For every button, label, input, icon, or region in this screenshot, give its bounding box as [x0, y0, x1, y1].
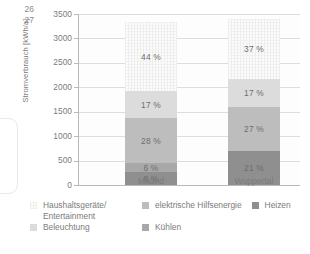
bar-wuppertal[interactable]: 37 %17 %27 %21 %	[228, 19, 280, 185]
y-axis-tick-label: 3500	[34, 9, 72, 19]
bar-segment-label: 17 %	[244, 88, 264, 98]
bar-segment-label: 21 %	[244, 163, 264, 173]
legend-label: elektrische Hilfsenergie	[155, 200, 242, 211]
legend-label: Beleuchtung	[43, 222, 90, 233]
legend-row-top-right: elektrische Hilfsenergie Heizen	[142, 200, 301, 211]
legend-swatch-icon	[252, 202, 259, 209]
legend-swatch-icon	[30, 224, 37, 231]
legend-label: Kühlen	[155, 222, 181, 233]
bar-madrid[interactable]: 44 %17 %28 %6 %8 %	[125, 22, 177, 185]
legend-swatch-icon	[142, 224, 149, 231]
legend-row-bottom: Beleuchtung	[30, 222, 100, 233]
x-axis-category-label: Wuppertal	[209, 176, 299, 186]
legend-row-top: Haushaltsgeräte/ Entertainment	[30, 200, 116, 221]
legend-item-elektrische-hilfsenergie[interactable]: elektrische Hilfsenergie	[142, 200, 242, 211]
bar-segment: 17 %	[228, 79, 280, 107]
legend-item-beleuchtung[interactable]: Beleuchtung	[30, 222, 90, 233]
y-axis-tick-label: 1500	[34, 106, 72, 116]
y-axis-tick-label: 500	[34, 155, 72, 165]
legend-item-haushaltsgeraete[interactable]: Haushaltsgeräte/ Entertainment	[30, 200, 106, 221]
y-axis-title: Stromverbrauch [kWh/a]	[21, 0, 30, 136]
y-axis-tick-label: 2500	[34, 57, 72, 67]
bar-segment-label: 17 %	[141, 100, 161, 110]
plot-area: 44 %17 %28 %6 %8 %37 %17 %27 %21 %	[78, 14, 300, 186]
legend-item-kuehlen[interactable]: Kühlen	[142, 222, 181, 233]
y-axis-tick-label: 1000	[34, 131, 72, 141]
bar-segment: 6 %	[125, 163, 177, 173]
legend-label: Haushaltsgeräte/ Entertainment	[43, 200, 106, 221]
legend-label: Heizen	[265, 200, 291, 211]
bar-segment-label: 44 %	[141, 52, 161, 62]
legend-swatch-icon	[30, 202, 37, 209]
gridline	[78, 14, 300, 15]
bar-segment: 44 %	[125, 22, 177, 92]
y-axis-tick-label: 3000	[34, 33, 72, 43]
bar-segment: 17 %	[125, 91, 177, 118]
legend-swatch-icon	[142, 202, 149, 209]
bar-segment-label: 27 %	[244, 124, 264, 134]
stacked-bar-chart: Stromverbrauch [kWh/a] 05001000150020002…	[0, 0, 310, 254]
legend-row-bottom-right: Kühlen	[142, 222, 191, 233]
y-axis-line	[78, 14, 79, 186]
y-axis-tick-label: 2000	[34, 82, 72, 92]
bar-segment: 27 %	[228, 107, 280, 151]
bar-segment: 37 %	[228, 19, 280, 79]
y-axis-tick-label: 0	[34, 180, 72, 190]
legend-item-heizen[interactable]: Heizen	[252, 200, 291, 211]
bar-segment-label: 37 %	[244, 44, 264, 54]
bar-segment-label: 28 %	[141, 136, 161, 146]
bar-segment: 28 %	[125, 118, 177, 162]
x-axis-category-label: Madrid	[106, 176, 196, 186]
bar-segment-label: 6 %	[143, 163, 158, 173]
